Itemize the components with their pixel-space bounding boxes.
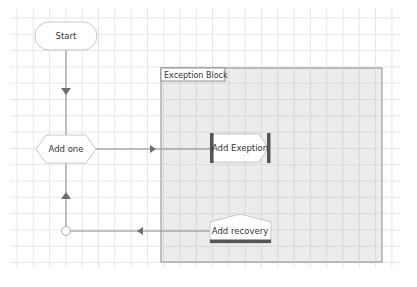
arrow-up-icon xyxy=(61,192,71,199)
node-label-add-one: Add one xyxy=(49,144,84,154)
node-label-add-exception: Add Exeption xyxy=(212,143,268,153)
arrow-right-icon xyxy=(150,145,156,153)
node-label-add-recovery: Add recovery xyxy=(212,226,268,236)
node-start[interactable]: Start xyxy=(35,22,97,50)
node-add-one[interactable]: Add one xyxy=(36,135,96,163)
arrow-down-icon xyxy=(61,88,71,95)
container-label: Exception Block xyxy=(164,71,228,80)
bottom-bar-icon xyxy=(210,240,271,244)
node-add-exception[interactable]: Add Exeption xyxy=(210,133,271,163)
node-label-start: Start xyxy=(56,31,77,41)
merge-connector-icon[interactable] xyxy=(62,227,71,236)
flowchart-canvas[interactable]: Exception Block Start Add one Add Exepti… xyxy=(0,0,417,287)
arrow-left-icon xyxy=(137,227,143,235)
